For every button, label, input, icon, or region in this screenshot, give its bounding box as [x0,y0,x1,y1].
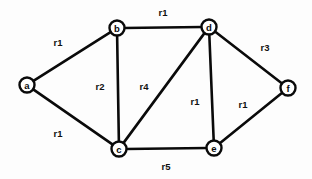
graph-node-e: e [207,141,222,156]
graph-edge-b-d [124,27,203,28]
graph-edge-c-e [126,148,208,149]
graph-edge-b-c [117,35,119,143]
graph-node-a: a [20,78,35,93]
edge-weight-label-d-e: r1 [191,96,201,107]
edge-weight-label-e-f: r1 [239,99,249,110]
graph-edge-a-c [33,89,114,145]
edge-labels-layer: r1r1r2r1r4r5r1r3r1 [54,7,270,172]
graph-edge-e-f [219,92,283,144]
graph-node-f: f [281,81,296,96]
graph-node-c: c [112,142,127,157]
graph-diagram: r1r1r2r1r4r5r1r3r1 abcdef [0,0,312,179]
edges-layer [33,27,283,149]
graph-node-b: b [110,21,125,36]
node-label-d: d [206,22,212,33]
node-label-a: a [24,80,30,91]
graph-edge-d-f [214,31,282,84]
edge-weight-label-c-e: r5 [162,161,172,172]
edge-weight-label-c-d: r4 [140,81,150,92]
node-label-c: c [116,144,121,155]
graph-canvas: r1r1r2r1r4r5r1r3r1 abcdef [0,0,312,179]
graph-edge-a-b [33,32,112,82]
edge-weight-label-b-c: r2 [96,81,105,92]
edge-weight-label-a-c: r1 [54,128,64,139]
edge-weight-label-d-f: r3 [261,42,270,53]
graph-node-d: d [202,20,217,35]
graph-edge-c-d [123,32,205,143]
edge-weight-label-a-b: r1 [54,37,64,48]
graph-edge-d-e [209,34,213,142]
edge-weight-label-b-d: r1 [159,7,169,18]
node-label-e: e [211,143,216,154]
node-label-b: b [114,23,120,34]
